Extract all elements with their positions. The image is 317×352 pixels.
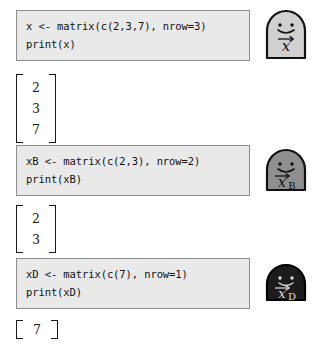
arch-creature-xd-icon: x D <box>263 262 309 302</box>
arch-creature-xb-icon: x B <box>263 146 309 192</box>
code-line-assignment: x <- matrix(c(2,3,7), nrow=3) <box>26 17 240 35</box>
code-line-assignment: xB <- matrix(c(2,3), nrow=2) <box>26 152 240 170</box>
code-line-print: print(xD) <box>26 283 240 301</box>
matrix-output-xd: 7 <box>16 320 58 339</box>
matrix-values: 7 <box>23 320 51 339</box>
bracket-left <box>16 205 23 253</box>
code-box-xb[interactable]: xB <- matrix(c(2,3), nrow=2) print(xB) <box>16 145 250 196</box>
matrix-values: 2 3 7 <box>23 74 49 143</box>
code-line-print: print(x) <box>26 35 240 53</box>
matrix-cell: 3 <box>32 98 40 119</box>
code-line-assignment: xD <- matrix(c(7), nrow=1) <box>26 265 240 283</box>
matrix-cell: 7 <box>32 119 40 140</box>
matrix-cell: 2 <box>32 77 40 98</box>
bracket-right <box>49 205 56 253</box>
bracket-right <box>49 74 56 143</box>
code-line-print: print(xB) <box>26 170 240 188</box>
matrix-output-xb: 2 3 <box>16 205 56 253</box>
bracket-right <box>51 320 58 339</box>
matrix-cell: 7 <box>33 321 41 338</box>
matrix-cell: 3 <box>32 229 40 250</box>
svg-text:x: x <box>282 37 291 55</box>
worksheet-page: x <- matrix(c(2,3,7), nrow=3) print(x) 2… <box>0 0 317 352</box>
bracket-left <box>16 320 23 339</box>
svg-text:B: B <box>288 180 295 191</box>
matrix-cell: 2 <box>32 208 40 229</box>
code-box-xd[interactable]: xD <- matrix(c(7), nrow=1) print(xD) <box>16 258 250 309</box>
code-box-x[interactable]: x <- matrix(c(2,3,7), nrow=3) print(x) <box>16 10 250 61</box>
bracket-left <box>16 74 23 143</box>
matrix-output-x: 2 3 7 <box>16 74 56 143</box>
matrix-values: 2 3 <box>23 205 49 253</box>
arch-creature-x-icon: x <box>263 8 309 60</box>
svg-text:D: D <box>288 291 296 302</box>
